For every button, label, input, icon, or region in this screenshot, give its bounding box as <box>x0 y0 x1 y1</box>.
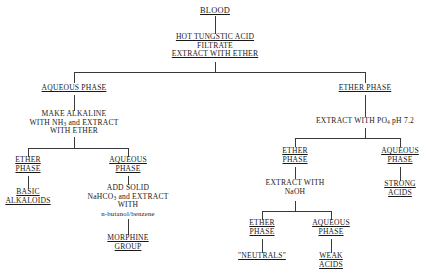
node-weak-acids: WEAK ACIDS <box>319 252 343 269</box>
connector-bottom-split <box>262 211 331 212</box>
strong-acids-line-2: ACIDS <box>384 189 416 198</box>
node-ether-phase-2: ETHER PHASE <box>15 156 40 173</box>
ether-phase-1-label: ETHER PHASE <box>339 84 392 93</box>
node-aqueous-phase-1: AQUEOUS PHASE <box>42 84 107 93</box>
connector-left-split <box>28 148 128 149</box>
extract-po4-pre: EXTRACT WITH PO <box>316 116 387 125</box>
weak-acids-line-2: ACIDS <box>319 261 343 270</box>
node-extract-naoh: EXTRACT WITH NaOH <box>266 179 325 196</box>
node-neutrals: "NEUTRALS" <box>238 252 286 261</box>
node-basic-alkaloids: BASIC ALKALOIDS <box>5 188 50 205</box>
add-solid-nahco: NaHCO <box>87 192 113 201</box>
ether-phase-3-line-2: PHASE <box>282 156 307 165</box>
node-blood: BLOOD <box>200 6 230 15</box>
extract-po4-label: EXTRACT WITH PO4 pH 7.2 <box>316 117 414 126</box>
connector-split-right <box>365 72 366 83</box>
node-make-alkaline: MAKE ALKALINE WITH NH3 and EXTRACT WITH … <box>29 110 118 136</box>
ether-phase-4-line-2: PHASE <box>249 228 274 237</box>
connector-split-left <box>74 72 75 83</box>
morphine-group-line-2: GROUP <box>107 243 148 252</box>
node-aqueous-phase-4: AQUEOUS PHASE <box>312 219 350 236</box>
add-solid-line-4: n-butanol/benzene <box>87 210 168 218</box>
connector-main-split <box>74 72 366 73</box>
add-solid-line-3: WITH <box>87 201 168 210</box>
node-blood-label: BLOOD <box>200 6 230 15</box>
aqueous-phase-1-label: AQUEOUS PHASE <box>42 84 107 93</box>
node-ether-phase-1: ETHER PHASE <box>339 84 392 93</box>
extract-po4-post: pH 7.2 <box>390 116 414 125</box>
node-ether-phase-4: ETHER PHASE <box>249 219 274 236</box>
node-aqueous-phase-2: AQUEOUS PHASE <box>109 156 147 173</box>
flowchart-diagram: BLOOD HOT TUNGSTIC ACID FILTRATE EXTRACT… <box>0 0 440 276</box>
ether-phase-2-line-2: PHASE <box>15 165 40 174</box>
node-add-solid: ADD SOLID NaHCO3 and EXTRACT WITH n-buta… <box>87 184 168 217</box>
make-alkaline-line-3: WITH ETHER <box>29 127 118 136</box>
aqueous-phase-2-line-2: PHASE <box>109 165 147 174</box>
node-morphine-group: MORPHINE GROUP <box>107 234 148 251</box>
node-ether-phase-3: ETHER PHASE <box>282 147 307 164</box>
node-tungstic-acid: HOT TUNGSTIC ACID FILTRATE EXTRACT WITH … <box>172 33 258 59</box>
connector-right-split <box>295 138 400 139</box>
aqueous-phase-3-line-2: PHASE <box>381 156 419 165</box>
extract-naoh-line-2: NaOH <box>266 188 325 197</box>
basic-alkaloids-line-2: ALKALOIDS <box>5 197 50 206</box>
connector-etherphase1-to-extract <box>365 95 366 117</box>
neutrals-label: "NEUTRALS" <box>238 252 286 261</box>
aqueous-phase-4-line-2: PHASE <box>312 228 350 237</box>
node-strong-acids: STRONG ACIDS <box>384 180 416 197</box>
node-aqueous-phase-3: AQUEOUS PHASE <box>381 147 419 164</box>
tungstic-line-3: EXTRACT WITH ETHER <box>172 50 258 59</box>
node-extract-po4: EXTRACT WITH PO4 pH 7.2 <box>316 117 414 126</box>
